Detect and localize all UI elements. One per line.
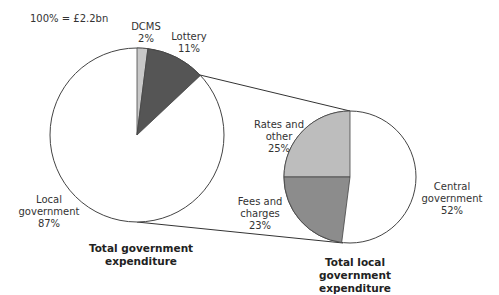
connector-line-top — [200, 75, 350, 111]
central-line2: government — [418, 193, 486, 205]
total-annotation: 100% = £2.2bn — [30, 13, 108, 25]
local-name-line2: government — [14, 206, 84, 218]
dcms-name: DCMS — [126, 21, 166, 33]
fees-line2: charges — [232, 208, 288, 220]
local-name-line1: Local — [14, 194, 84, 206]
rates-pct: 25% — [250, 143, 308, 155]
title-left-line2: expenditure — [88, 255, 194, 268]
fees-label: Fees and charges 23% — [232, 196, 288, 232]
central-pct: 52% — [418, 205, 486, 217]
central-government-label: Central government 52% — [418, 181, 486, 217]
slice-fees-and-charges — [284, 177, 350, 243]
lottery-pct: 11% — [164, 43, 214, 55]
local-government-label: Local government 87% — [14, 194, 84, 230]
rates-line1: Rates and — [250, 119, 308, 131]
title-right-line1: Total local government — [288, 256, 422, 282]
title-left-line1: Total government — [88, 242, 194, 255]
title-right-line2: expenditure — [288, 282, 422, 295]
fees-pct: 23% — [232, 220, 288, 232]
lottery-label: Lottery 11% — [164, 31, 214, 55]
fees-line1: Fees and — [232, 196, 288, 208]
dcms-pct: 2% — [126, 33, 166, 45]
rates-line2: other — [250, 131, 308, 143]
chart-title-right: Total local government expenditure — [288, 256, 422, 295]
local-pct: 87% — [14, 218, 84, 230]
central-line1: Central — [418, 181, 486, 193]
chart-title-left: Total government expenditure — [88, 242, 194, 268]
rates-label: Rates and other 25% — [250, 119, 308, 155]
lottery-name: Lottery — [164, 31, 214, 43]
dcms-label: DCMS 2% — [126, 21, 166, 45]
